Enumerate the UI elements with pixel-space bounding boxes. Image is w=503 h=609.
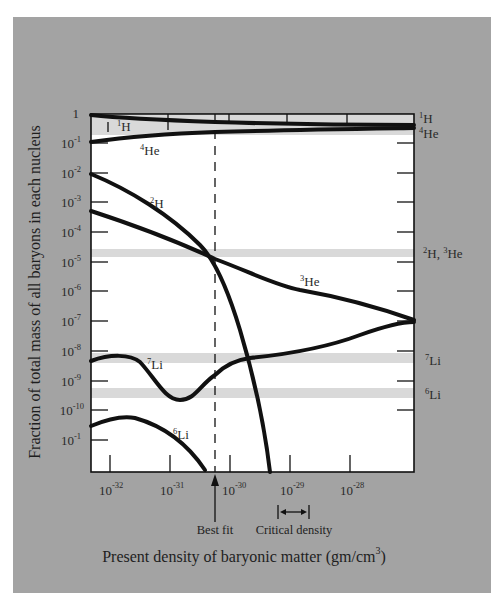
x-tick-2: 10-30 bbox=[222, 480, 246, 498]
y-tick-labels: 1 10-1 10-2 10-3 10-4 10-5 10-6 10-7 10-… bbox=[60, 106, 84, 448]
y-tick-6: 10-6 bbox=[61, 282, 81, 299]
critical-density-label: Critical density bbox=[256, 523, 333, 537]
critical-density-bracket bbox=[278, 505, 309, 519]
y-tick-10: 10-10 bbox=[60, 401, 84, 418]
band-6li bbox=[91, 388, 414, 398]
x-tick-labels: 10-32 10-31 10-30 10-29 10-28 bbox=[99, 480, 364, 498]
best-fit-arrow bbox=[211, 474, 219, 522]
x-tick-1: 10-31 bbox=[160, 480, 184, 498]
right-labels: 1H 4He 2H, 3He 7Li 6Li bbox=[419, 110, 463, 402]
right-label-7li: 7Li bbox=[425, 352, 441, 368]
y-tick-0: 1 bbox=[73, 106, 80, 121]
y-tick-11: 10-1 bbox=[61, 431, 81, 448]
x-tick-3: 10-29 bbox=[280, 480, 304, 498]
band-2h-3he bbox=[91, 249, 414, 257]
best-fit-label: Best fit bbox=[197, 523, 234, 537]
right-label-2h-3he: 2H, 3He bbox=[423, 245, 463, 261]
right-label-1h: 1H bbox=[419, 110, 433, 126]
y-tick-5: 10-5 bbox=[61, 253, 81, 270]
y-tick-8: 10-8 bbox=[61, 342, 81, 359]
arrow-right-icon bbox=[301, 509, 307, 515]
x-tick-0: 10-32 bbox=[99, 480, 123, 498]
y-tick-9: 10-9 bbox=[61, 372, 81, 389]
x-tick-4: 10-28 bbox=[340, 480, 364, 498]
arrow-up-icon bbox=[211, 474, 219, 486]
right-label-6li: 6Li bbox=[425, 386, 441, 402]
y-tick-1: 10-1 bbox=[61, 134, 81, 151]
y-tick-4: 10-4 bbox=[61, 223, 82, 240]
y-tick-3: 10-3 bbox=[61, 193, 81, 210]
chart-svg: 1 10-1 10-2 10-3 10-4 10-5 10-6 10-7 10-… bbox=[0, 0, 503, 609]
arrow-left-icon bbox=[280, 509, 286, 515]
y-axis-title: Fraction of total mass of all baryons in… bbox=[26, 125, 44, 459]
y-tick-7: 10-7 bbox=[61, 312, 81, 329]
x-axis-title: Present density of baryonic matter (gm/c… bbox=[102, 545, 386, 566]
y-tick-2: 10-2 bbox=[61, 164, 81, 181]
right-label-4he: 4He bbox=[419, 125, 439, 141]
